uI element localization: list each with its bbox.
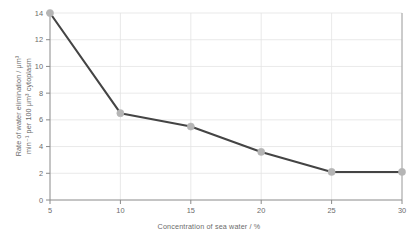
- data-point-marker: [187, 123, 194, 130]
- line-chart-plot: 0246810121451015202530: [0, 0, 418, 240]
- y-axis-tick-label: 6: [39, 115, 43, 124]
- x-axis-tick-label: 30: [398, 206, 406, 215]
- data-point-marker: [46, 9, 53, 16]
- y-axis-title-line-2: min⁻¹ per 100 μm³ cytoplasm: [24, 58, 34, 154]
- y-axis-title: Rate of water elimination / μm³ min⁻¹ pe…: [14, 11, 38, 201]
- x-axis-tick-label: 5: [48, 206, 52, 215]
- y-axis-tick-label: 0: [39, 196, 43, 205]
- data-point-marker: [328, 168, 335, 175]
- x-axis-tick-label: 20: [257, 206, 265, 215]
- x-axis-tick-label: 10: [116, 206, 124, 215]
- y-axis-title-line-1: Rate of water elimination / μm³: [14, 56, 24, 157]
- data-point-marker: [258, 148, 265, 155]
- y-axis-tick-label: 8: [39, 89, 43, 98]
- x-axis-tick-label: 25: [327, 206, 335, 215]
- data-point-marker: [398, 168, 405, 175]
- data-point-marker: [117, 110, 124, 117]
- data-series-line: [50, 13, 402, 172]
- chart-container: 0246810121451015202530 Rate of water eli…: [0, 0, 418, 240]
- x-axis-tick-label: 15: [187, 206, 195, 215]
- y-axis-tick-label: 4: [39, 142, 43, 151]
- x-axis-title: Concentration of sea water / %: [0, 222, 418, 231]
- y-axis-tick-label: 2: [39, 169, 43, 178]
